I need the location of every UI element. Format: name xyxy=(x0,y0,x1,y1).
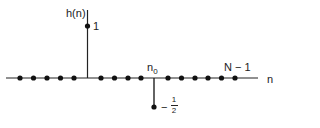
n0-label: n0 xyxy=(147,62,158,76)
impulse-dot-negative xyxy=(151,104,156,109)
n0-label-sub: 0 xyxy=(153,67,157,76)
negative-value-numerator: 1 xyxy=(170,96,178,104)
negative-value-sign: − xyxy=(161,102,167,113)
y-axis-label: h(n) xyxy=(66,8,86,19)
negative-value-denominator: 2 xyxy=(170,107,178,115)
impulse-dot-positive xyxy=(85,23,90,28)
positive-value-label: 1 xyxy=(93,21,99,32)
end-label: N − 1 xyxy=(224,62,251,73)
x-axis-label: n xyxy=(267,74,273,85)
